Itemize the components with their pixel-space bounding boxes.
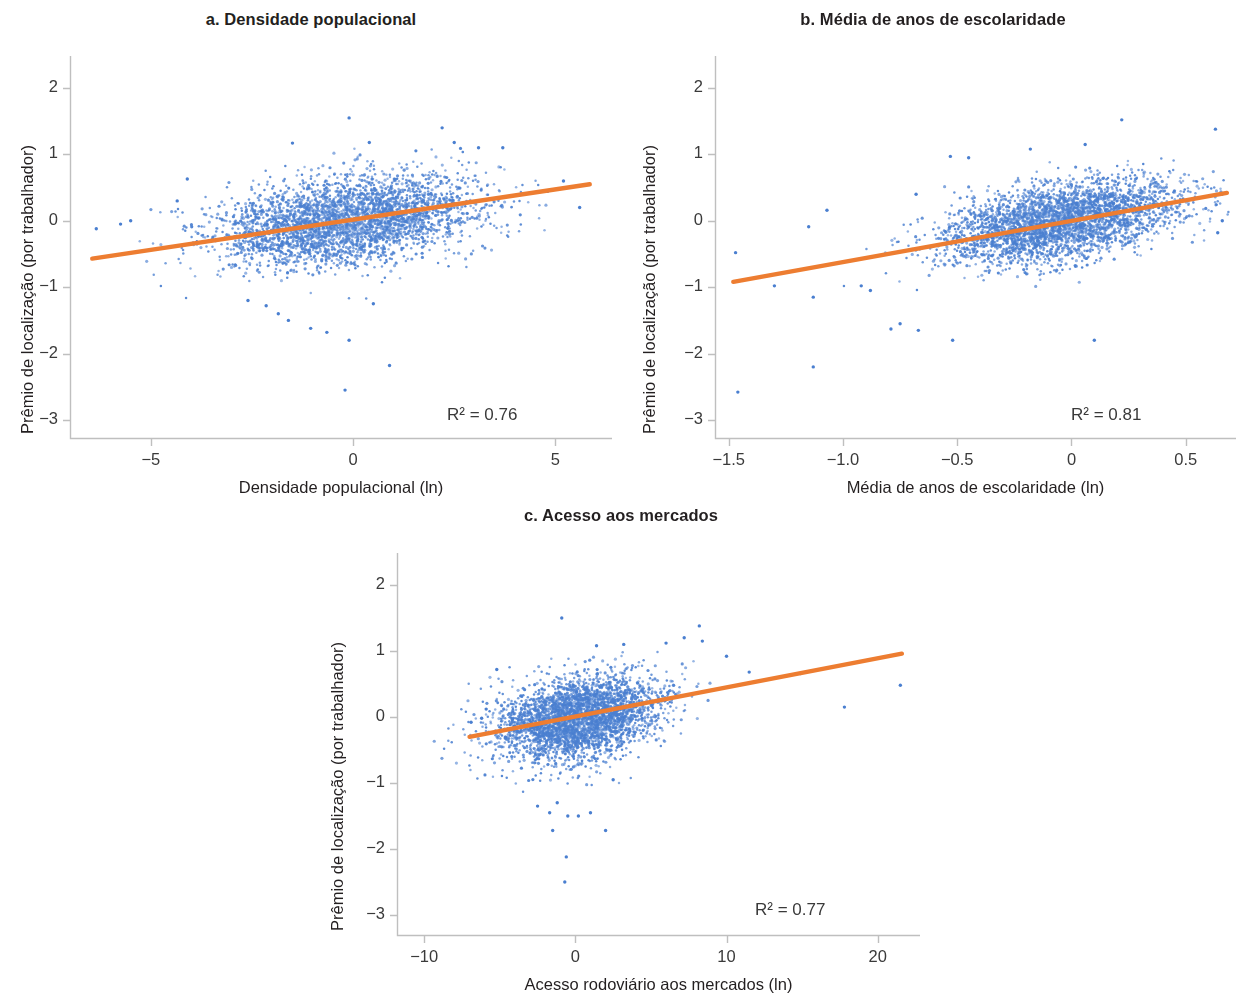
panel-c-xtick-2: 10 <box>687 947 767 966</box>
panel-c-ytick-0: 2 <box>376 574 385 593</box>
panel-b-media-anos-escolaridade: b. Média de anos de escolaridade Prêmio … <box>622 0 1244 500</box>
panel-a-ytick-3: −1 <box>39 276 58 295</box>
panel-a-xtick-0: −5 <box>111 450 191 469</box>
panel-c-ytick-4: −2 <box>366 838 385 857</box>
panel-a-y-axis-title: Prêmio de localização (por trabalhador) <box>18 145 37 434</box>
panel-a-x-axis-title: Densidade populacional (ln) <box>10 478 672 497</box>
panel-c-xtick-3: 20 <box>838 947 918 966</box>
panel-a-r2-annotation: R² = 0.76 <box>447 405 517 425</box>
panel-a-densidade-populacional: a. Densidade populacional Prêmio de loca… <box>0 0 622 500</box>
panel-b-ytick-1: 1 <box>694 143 703 162</box>
panel-a-plot-canvas <box>0 0 622 500</box>
panel-a-ytick-1: 1 <box>49 143 58 162</box>
panel-c-ytick-1: 1 <box>376 640 385 659</box>
panel-b-y-axis-title: Prêmio de localização (por trabalhador) <box>640 145 659 434</box>
panel-b-r2-text: R² = 0.81 <box>1071 405 1141 424</box>
panel-c-plot-canvas <box>310 498 932 996</box>
figure-root: a. Densidade populacional Prêmio de loca… <box>0 0 1244 996</box>
panel-c-ytick-5: −3 <box>366 904 385 923</box>
panel-b-ytick-2: 0 <box>694 210 703 229</box>
panel-a-ytick-2: 0 <box>49 210 58 229</box>
panel-c-ytick-2: 0 <box>376 706 385 725</box>
panel-a-ytick-0: 2 <box>49 77 58 96</box>
panel-a-r2-text: R² = 0.76 <box>447 405 517 424</box>
panel-b-xtick-4: 0.5 <box>1146 450 1226 469</box>
panel-a-xtick-2: 5 <box>515 450 595 469</box>
panel-c-ytick-3: −1 <box>366 772 385 791</box>
panel-b-ytick-5: −3 <box>684 409 703 428</box>
panel-a-ytick-4: −2 <box>39 343 58 362</box>
panel-b-r2-annotation: R² = 0.81 <box>1071 405 1141 425</box>
panel-b-xtick-1: −1.0 <box>803 450 883 469</box>
panel-b-xtick-0: −1.5 <box>689 450 769 469</box>
panel-c-r2-text: R² = 0.77 <box>755 900 825 919</box>
panel-c-acesso-aos-mercados: c. Acesso aos mercados Prêmio de localiz… <box>310 498 932 996</box>
panel-b-xtick-2: −0.5 <box>917 450 997 469</box>
panel-c-y-axis-title: Prêmio de localização (por trabalhador) <box>328 642 347 931</box>
panel-b-plot-canvas <box>622 0 1244 500</box>
panel-c-xtick-0: −10 <box>384 947 464 966</box>
panel-b-x-axis-title: Média de anos de escolaridade (ln) <box>655 478 1244 497</box>
panel-a-xtick-1: 0 <box>313 450 393 469</box>
panel-b-ytick-3: −1 <box>684 276 703 295</box>
panel-b-ytick-4: −2 <box>684 343 703 362</box>
panel-b-ytick-0: 2 <box>694 77 703 96</box>
panel-c-x-axis-title: Acesso rodoviário aos mercados (ln) <box>337 975 980 994</box>
panel-a-ytick-5: −3 <box>39 409 58 428</box>
panel-b-xtick-3: 0 <box>1031 450 1111 469</box>
panel-c-r2-annotation: R² = 0.77 <box>755 900 825 920</box>
panel-c-xtick-1: 0 <box>535 947 615 966</box>
